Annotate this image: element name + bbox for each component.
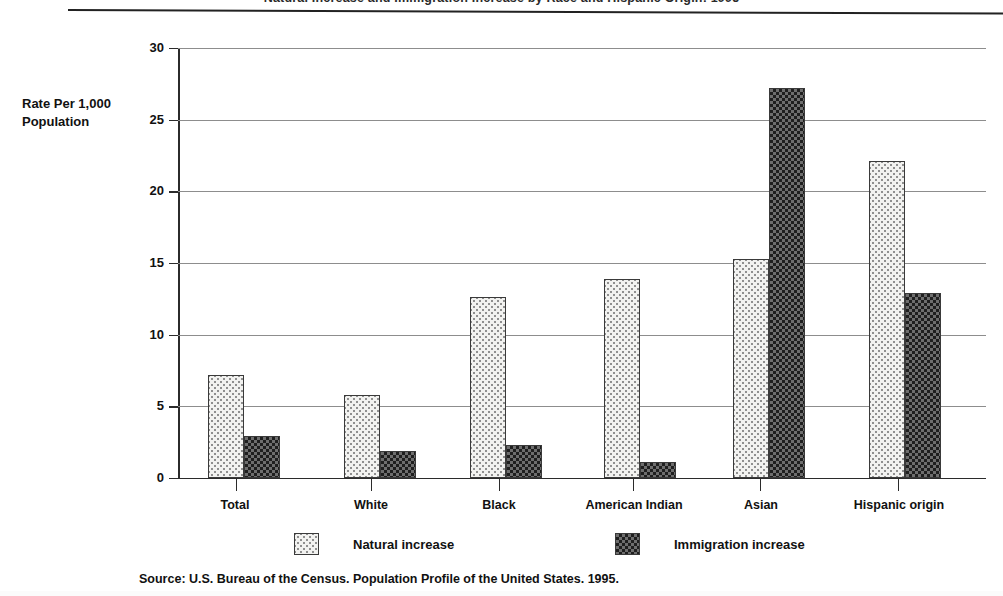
y-axis-tick-label: 25: [128, 112, 164, 127]
bar-natural: [344, 395, 380, 478]
y-axis-tick-label: 10: [128, 327, 164, 342]
y-axis-title-line1: Rate Per 1,000: [22, 95, 162, 113]
y-axis-tick-label: 20: [128, 183, 164, 198]
legend-swatch-icon: [294, 533, 319, 555]
bar-natural: [470, 297, 506, 478]
chart-legend: Natural increaseImmigration increase: [0, 533, 1003, 563]
y-axis-tick-mark: [169, 120, 178, 121]
y-axis-tick-label: 0: [128, 470, 164, 485]
y-axis-tick-mark: [169, 335, 178, 336]
y-axis-tick-mark: [169, 478, 178, 479]
legend-item[interactable]: Immigration increase: [615, 533, 805, 555]
bar-natural: [869, 161, 905, 478]
bar-immigration: [380, 451, 416, 478]
page-bottom-edge: [0, 591, 1003, 596]
bar-immigration: [244, 436, 280, 478]
legend-label: Natural increase: [353, 537, 454, 552]
y-axis-tick-mark: [169, 48, 178, 49]
bar-natural: [733, 259, 769, 478]
x-axis-tick-mark: [633, 478, 634, 491]
bar-immigration: [640, 462, 676, 478]
x-axis-category-label: Hispanic origin: [809, 498, 989, 512]
y-axis-tick-mark: [169, 191, 178, 192]
y-axis-tick-label: 30: [128, 40, 164, 55]
y-axis-tick-mark: [169, 406, 178, 407]
y-axis-tick-label: 15: [128, 255, 164, 270]
x-axis-tick-mark: [898, 478, 899, 491]
legend-item[interactable]: Natural increase: [294, 533, 454, 555]
y-axis-tick-mark: [169, 263, 178, 264]
source-note: Source: U.S. Bureau of the Census. Popul…: [139, 572, 619, 586]
bar-immigration: [905, 293, 941, 478]
bar-natural: [208, 375, 244, 478]
legend-swatch-icon: [615, 533, 640, 555]
y-axis-tick-label: 5: [128, 398, 164, 413]
chart-page: Natural Increase and Immigration Increas…: [0, 0, 1003, 596]
legend-label: Immigration increase: [674, 537, 805, 552]
bar-immigration: [506, 445, 542, 478]
x-axis-tick-mark: [499, 478, 500, 491]
x-axis-tick-mark: [236, 478, 237, 491]
bar-immigration: [769, 88, 805, 478]
bar-chart: Rate Per 1,000 Population 051015202530 T…: [0, 0, 1003, 596]
x-axis-tick-mark: [371, 478, 372, 491]
bar-natural: [604, 279, 640, 478]
plot-area: [178, 48, 986, 478]
x-axis-tick-mark: [760, 478, 761, 491]
gridline: [178, 478, 986, 479]
